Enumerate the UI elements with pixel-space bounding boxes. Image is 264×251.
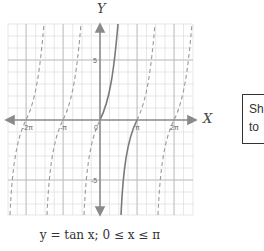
y-tick-5: 5 — [93, 57, 97, 64]
x-tick-neg-2pi: -2π — [22, 124, 33, 131]
axes — [6, 24, 196, 215]
x-tick-pi: π — [135, 124, 140, 131]
side-note-box: Sh to — [242, 94, 264, 144]
x-tick-0: 0 — [94, 124, 98, 131]
graph-caption: y = tan x; 0 ≤ x ≤ π — [0, 228, 200, 242]
side-note-line2: to — [243, 118, 264, 136]
x-axis-label: X — [203, 111, 212, 126]
x-tick-neg-pi: -π — [60, 124, 67, 131]
x-tick-2pi: 2π — [170, 124, 179, 131]
side-note-line1: Sh — [243, 100, 264, 118]
y-axis-label: Y — [97, 1, 106, 16]
y-tick-neg5: -5 — [91, 177, 97, 184]
tangent-graph: -2π -π 0 π 2π 5 -5 — [0, 0, 210, 222]
